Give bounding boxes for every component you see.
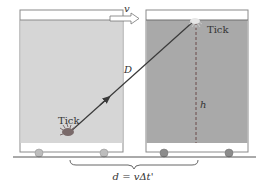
tick-start-label: Tick bbox=[58, 115, 80, 126]
tick-end-label: Tick bbox=[207, 24, 229, 35]
distance-brace bbox=[70, 160, 198, 169]
velocity-label: v bbox=[124, 3, 130, 14]
light-clock-diagram: v Tick Tick D h d = vΔt' bbox=[0, 0, 266, 184]
diagonal-label: D bbox=[123, 64, 132, 75]
right-clock-box bbox=[146, 10, 248, 152]
height-label: h bbox=[200, 99, 206, 110]
distance-equation: d = vΔt' bbox=[113, 171, 154, 182]
